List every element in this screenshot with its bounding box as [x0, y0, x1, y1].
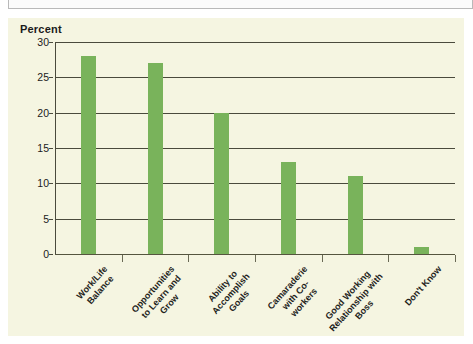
- bar: [148, 63, 163, 254]
- bar: [348, 176, 363, 254]
- bar: [281, 162, 296, 254]
- y-axis-tick-mark: [49, 183, 53, 184]
- y-axis-tick-mark: [49, 254, 53, 255]
- gridline: [55, 183, 455, 184]
- x-axis-divider: [122, 255, 123, 262]
- y-axis-title: Percent: [20, 23, 62, 35]
- x-axis-divider: [255, 255, 256, 262]
- y-axis-tick-mark: [49, 219, 53, 220]
- y-axis-tick-mark: [49, 77, 53, 78]
- y-axis-tick-label: 15: [27, 142, 49, 154]
- gridline: [55, 77, 455, 78]
- y-axis-tick-mark: [49, 113, 53, 114]
- y-axis-tick-label: 0: [27, 248, 49, 260]
- gridline: [55, 219, 455, 220]
- y-axis-tick-mark: [49, 148, 53, 149]
- bar-chart-panel: Percent 051015202530 Work/LifeBalanceOpp…: [8, 18, 464, 336]
- x-axis-divider: [388, 255, 389, 262]
- x-axis-tick-label-line: Don't Know: [402, 264, 443, 308]
- bar: [81, 56, 96, 254]
- x-axis-divider: [188, 255, 189, 262]
- gridline: [55, 148, 455, 149]
- y-axis-tick-label: 5: [27, 213, 49, 225]
- x-axis-tick-label: Camaraderiewith Co-workers: [266, 264, 327, 327]
- x-axis-tick-label: Opportunitiesto Learn andGrow: [130, 264, 194, 330]
- y-axis-tick-labels: 051015202530: [23, 42, 49, 254]
- y-axis-tick-label: 25: [27, 71, 49, 83]
- y-axis-tick-label: 30: [27, 36, 49, 48]
- bar: [414, 247, 429, 254]
- gridline: [55, 113, 455, 114]
- x-axis-dividers: [55, 255, 455, 263]
- x-axis-tick-label: Work/LifeBalance: [75, 264, 119, 309]
- x-axis-divider: [455, 255, 456, 262]
- y-axis-tick-mark: [49, 42, 53, 43]
- plot-area: [55, 42, 455, 254]
- x-axis-tick-labels: Work/LifeBalanceOpportunitiesto Learn an…: [55, 264, 455, 334]
- x-axis-tick-label: Ability toAccomplishGoals: [202, 264, 261, 324]
- page-top-strip: [8, 0, 473, 9]
- x-axis-tick-label: Good WorkingRelationship withBoss: [319, 264, 393, 341]
- x-axis-divider: [322, 255, 323, 262]
- bar: [214, 113, 229, 254]
- x-axis-tick-label: Don't Know: [402, 264, 443, 308]
- gridline: [55, 42, 455, 43]
- y-axis-tick-label: 10: [27, 177, 49, 189]
- y-axis-tick-label: 20: [27, 107, 49, 119]
